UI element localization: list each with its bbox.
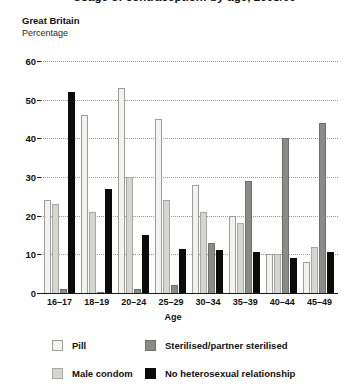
y-tick-label: 60 [25,56,36,67]
y-tick-label: 50 [25,94,36,105]
bar[interactable] [105,189,112,293]
units-label: Percentage [22,27,80,40]
y-tick-label: 0 [31,288,36,299]
x-tick-label: 25–29 [158,297,183,307]
legend-row-1: Pill Sterilised/partner sterilised [0,331,346,359]
chart-plot-area: 010203040506016–1718–1920–2425–2930–3435… [41,61,338,293]
bar[interactable] [253,252,260,293]
x-tick-label: 40–44 [270,297,295,307]
y-tick-mark [37,216,41,217]
bar[interactable] [311,247,318,293]
x-tick-label: 18–19 [84,297,109,307]
legend-row-2: Male condom No heterosexual relationship [0,359,346,387]
bar[interactable] [303,262,310,293]
bar[interactable] [163,200,170,293]
bar[interactable] [327,252,334,293]
bar[interactable] [118,88,125,293]
bar[interactable] [179,249,186,293]
bar[interactable] [134,289,141,293]
bar[interactable] [81,115,88,293]
y-tick-mark [37,61,41,62]
bar-group [81,61,113,293]
bar[interactable] [229,216,236,293]
bar[interactable] [155,119,162,293]
bar-group [303,61,335,293]
y-tick-mark [37,254,41,255]
x-axis-title: Age [0,312,346,322]
bar[interactable] [192,185,199,293]
y-tick-label: 30 [25,172,36,183]
y-tick-mark [37,100,41,101]
bar[interactable] [200,212,207,293]
legend-swatch-icon-sterilised [145,340,156,351]
chart-title: Usage of contraception: by age, 2008/09 [73,0,296,3]
legend-label-male-condom: Male condom [72,368,133,379]
bar-group [155,61,187,293]
bar[interactable] [97,292,104,293]
region-label: Great Britain [22,14,80,27]
bar[interactable] [60,289,67,293]
bar[interactable] [245,181,252,293]
y-tick-label: 40 [25,133,36,144]
chart-legend: Pill Sterilised/partner sterilised Male … [0,331,346,387]
legend-item-no-relationship: No heterosexual relationship [145,368,346,379]
x-tick-label: 16–17 [47,297,72,307]
y-tick-mark [37,177,41,178]
legend-swatch-icon-male-condom [52,368,63,379]
y-tick-mark [37,138,41,139]
bar[interactable] [44,200,51,293]
bar-group [192,61,224,293]
legend-item-sterilised: Sterilised/partner sterilised [145,340,346,351]
legend-label-no-relationship: No heterosexual relationship [165,368,295,379]
bar-group [266,61,298,293]
bar[interactable] [52,204,59,293]
x-tick-label: 45–49 [307,297,332,307]
bar[interactable] [142,235,149,293]
legend-swatch-icon-no-relationship [145,368,156,379]
chart-title-strip: Usage of contraception: by age, 2008/09 [0,0,346,9]
legend-label-sterilised: Sterilised/partner sterilised [165,340,288,351]
chart-subtitle-block: Great Britain Percentage [22,14,80,40]
legend-item-pill: Pill [0,340,145,351]
bar[interactable] [282,138,289,293]
x-tick-label: 20–24 [121,297,146,307]
x-tick-label: 35–39 [233,297,258,307]
bar[interactable] [266,254,273,293]
bar[interactable] [290,258,297,293]
bar-group [229,61,261,293]
bar-group [44,61,76,293]
bar[interactable] [89,212,96,293]
bar[interactable] [68,92,75,293]
bar[interactable] [319,123,326,293]
y-tick-label: 10 [25,249,36,260]
bar[interactable] [171,285,178,293]
bar[interactable] [126,177,133,293]
x-tick-label: 30–34 [196,297,221,307]
bar[interactable] [216,250,223,293]
legend-label-pill: Pill [72,340,86,351]
bar[interactable] [237,223,244,293]
bar[interactable] [274,254,281,293]
x-axis-line [38,293,338,294]
legend-swatch-icon-pill [52,340,63,351]
legend-item-male-condom: Male condom [0,368,145,379]
bar[interactable] [208,243,215,293]
y-tick-label: 20 [25,210,36,221]
bar-group [118,61,150,293]
